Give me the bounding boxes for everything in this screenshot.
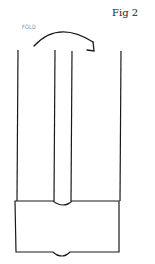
right-outer-line (120, 51, 121, 201)
fold-arrow-icon (34, 32, 94, 51)
fold-diagram (0, 0, 155, 264)
inner-right-line (71, 51, 72, 201)
left-outer-line (17, 50, 18, 201)
vertical-lines (17, 50, 121, 201)
folded-base-rectangle (15, 201, 119, 256)
inner-left-line (54, 50, 55, 201)
